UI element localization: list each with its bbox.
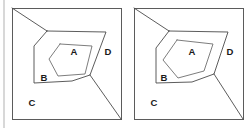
right-region-label-a: A — [189, 46, 196, 57]
left-region-label-d: D — [105, 46, 112, 57]
right-region-label-c: C — [151, 97, 158, 108]
left-region-label-c: C — [29, 97, 36, 108]
right-region-label-d: D — [227, 46, 234, 57]
left-region-label-b: B — [41, 72, 48, 83]
figure-root: A B C D A B C D — [0, 0, 251, 128]
left-region-label-a: A — [71, 46, 78, 57]
left-margin-rule — [3, 0, 5, 128]
left-diagram-panel: A B C D — [12, 8, 122, 120]
right-diagram-panel: A B C D — [134, 8, 244, 120]
right-region-label-b: B — [161, 72, 168, 83]
